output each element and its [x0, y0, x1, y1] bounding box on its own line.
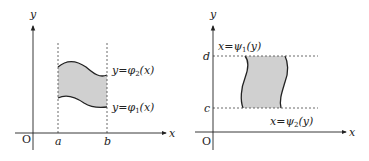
left-diagram: x y O a b y=φ2(x) y=φ1(x) — [15, 8, 176, 150]
y-axis-label: y — [29, 8, 37, 21]
origin-label: O — [22, 133, 31, 146]
region-diagrams: x y O a b y=φ2(x) y=φ1(x) x y O d c x=ψ1… — [0, 0, 369, 161]
right-curve-label: x=ψ2(y) — [270, 115, 313, 129]
lower-curve-label: y=φ1(x) — [111, 101, 154, 115]
bound-label-a: a — [55, 135, 62, 148]
origin-label: O — [202, 135, 211, 148]
bound-label-d: d — [203, 50, 210, 63]
upper-curve-label: y=φ2(x) — [111, 64, 154, 78]
left-region-fill — [58, 62, 107, 108]
bound-label-b: b — [104, 135, 111, 148]
x-axis-label: x — [349, 126, 356, 139]
y-axis-label: y — [209, 8, 217, 21]
x-axis-label: x — [169, 127, 176, 140]
bound-label-c: c — [204, 102, 210, 115]
right-diagram: x y O d c x=ψ1(y) x=ψ2(y) — [195, 8, 356, 150]
left-curve-label: x=ψ1(y) — [218, 40, 261, 54]
